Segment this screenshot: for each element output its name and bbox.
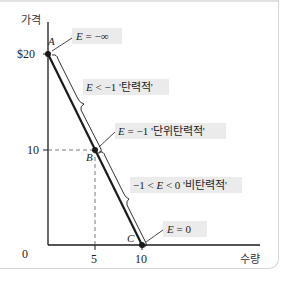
annotation-inelastic: −1 < E < 0 '비탄력적' <box>133 179 227 191</box>
annotation-e-infinity: E = −∞ <box>75 30 109 42</box>
point-a-marker <box>45 51 51 57</box>
point-c-label: C <box>127 232 135 244</box>
brace-elastic <box>52 55 101 153</box>
y-tick-label-20: $20 <box>17 47 35 61</box>
leader-c <box>146 230 163 242</box>
leader-a <box>52 38 72 51</box>
point-b-label: B <box>86 151 93 163</box>
x-tick-label-10: 10 <box>135 252 147 266</box>
brace-inelastic <box>99 152 146 247</box>
annotation-unit-elastic: E = −1 '단위탄력적' <box>117 125 205 137</box>
x-tick-label-5: 5 <box>91 252 97 266</box>
y-axis-label: 가격 <box>21 14 41 27</box>
point-a-label: A <box>47 35 55 47</box>
origin-label: 0 <box>22 247 28 261</box>
leader-b <box>99 132 115 147</box>
point-b-marker <box>92 147 98 153</box>
annotation-e-zero: E = 0 <box>166 223 191 235</box>
point-c-marker <box>139 242 145 248</box>
elasticity-diagram: 가격 수량 0 $20 10 5 10 A B C E = −∞ E < −1 … <box>0 0 292 281</box>
annotation-elastic: E < −1 '탄력적' <box>85 81 153 93</box>
y-tick-label-10: 10 <box>27 143 39 157</box>
x-axis-label: 수량 <box>240 253 260 266</box>
